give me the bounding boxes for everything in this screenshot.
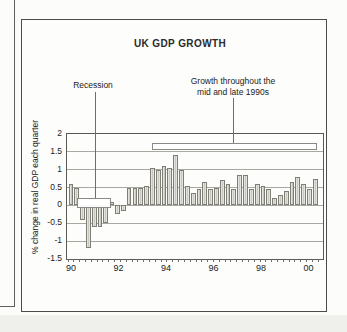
annotation-recession-label: Recession [43,80,143,91]
gdp-bar-93Q3 [150,168,155,206]
gdp-bar-90Q4 [86,205,91,248]
recession-period-bracket [77,198,111,208]
quarter-tick [300,259,301,262]
gdp-bar-91Q3 [103,205,108,223]
x-tick-label-94: 94 [153,263,179,273]
y-tick-label--1: -1 [38,235,62,245]
quarter-tick [318,259,319,262]
quarter-tick [143,259,144,262]
quarter-tick [190,259,191,262]
gdp-bar-98Q2 [261,186,266,206]
gdp-bar-95Q1 [185,186,190,206]
y-tick-label-1: 1 [38,164,62,174]
growth-period-bracket [152,143,317,150]
gdp-bar-99Q3 [290,182,295,205]
quarter-tick [114,259,115,262]
quarter-tick [73,259,74,262]
quarter-tick [79,259,80,262]
gridline-1 [67,169,323,170]
gdp-bar-98Q3 [266,189,271,205]
gdp-bar-92Q1 [115,205,120,214]
quarter-tick [265,259,266,262]
page-bottom-band [0,315,347,332]
quarter-tick [137,259,138,262]
x-tick-label-90: 90 [58,263,84,273]
quarter-tick [306,259,307,262]
gdp-bar-94Q4 [179,170,184,206]
gridline--1 [67,241,323,242]
gridline-0.5 [67,187,323,188]
x-tick-label-92: 92 [106,263,132,273]
y-tick-label-2: 2 [38,128,62,138]
x-tick-label-96: 96 [201,263,227,273]
quarter-tick [120,259,121,262]
quarter-tick [219,259,220,262]
gdp-bar-92Q2 [121,205,126,210]
scanned-page: UK GDP GROWTH Recession Growth throughou… [0,0,347,332]
gdp-bar-00Q3 [313,179,318,206]
annotation-growth-line2: mid and late 1990s [158,87,308,98]
quarter-tick [196,259,197,262]
gdp-bar-93Q4 [156,170,161,206]
chart-title: UK GDP GROWTH [80,38,280,49]
quarter-tick [283,259,284,262]
quarter-tick [178,259,179,262]
quarter-tick [225,259,226,262]
gdp-bar-95Q3 [197,189,202,205]
quarter-tick [260,259,261,262]
gdp-bar-97Q1 [231,189,236,205]
quarter-tick [230,259,231,262]
gdp-bar-94Q1 [162,166,167,205]
plot-area [66,133,324,260]
gdp-bar-97Q3 [243,175,248,205]
gdp-bar-97Q4 [249,189,254,205]
gdp-bar-95Q2 [191,193,196,206]
y-tick-label-0.5: 0.5 [38,182,62,192]
quarter-tick [207,259,208,262]
gdp-bar-93Q1 [138,188,143,206]
x-tick-label-00: 00 [296,263,322,273]
growth-pointer-line [233,98,234,143]
quarter-tick [155,259,156,262]
gdp-bar-99Q4 [295,177,300,206]
gdp-bar-98Q1 [255,184,260,205]
quarter-tick [85,259,86,262]
gdp-bar-92Q4 [133,188,138,206]
annotation-growth-line1: Growth throughout the [158,76,308,87]
quarter-tick [236,259,237,262]
quarter-tick [277,259,278,262]
quarter-tick [126,259,127,262]
gdp-bar-00Q1 [301,184,306,205]
quarter-tick [201,259,202,262]
gdp-bar-94Q2 [167,168,172,206]
quarter-tick [102,259,103,262]
quarter-tick [271,259,272,262]
y-tick-label--0.5: -0.5 [38,217,62,227]
gdp-bar-90Q1 [69,184,74,205]
gdp-bar-94Q3 [173,155,178,205]
quarter-tick [172,259,173,262]
x-tick-label-98: 98 [248,263,274,273]
gridline-1.5 [67,151,323,152]
quarter-tick [161,259,162,262]
adjacent-figure-edge [0,0,15,307]
y-tick-label-1.5: 1.5 [38,146,62,156]
gdp-bar-96Q4 [226,184,231,205]
gdp-bar-96Q2 [214,188,219,206]
annotation-growth-label: Growth throughout the mid and late 1990s [158,76,308,97]
quarter-tick [108,259,109,262]
gdp-bar-99Q1 [278,195,283,206]
gdp-bar-93Q2 [144,186,149,206]
quarter-tick [97,259,98,262]
quarter-tick [312,259,313,262]
gdp-bar-00Q2 [307,189,312,205]
quarter-tick [242,259,243,262]
quarter-tick [166,259,167,262]
quarter-tick [213,259,214,262]
quarter-tick [248,259,249,262]
gdp-bar-95Q4 [202,182,207,205]
recession-pointer-line [95,92,96,198]
quarter-tick [149,259,150,262]
quarter-tick [294,259,295,262]
quarter-tick [68,259,69,262]
